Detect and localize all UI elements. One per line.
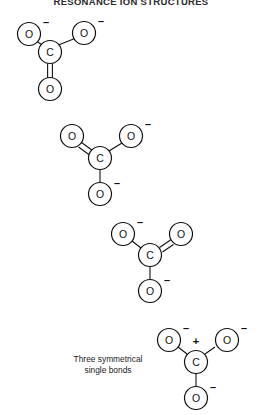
bond-single-upper-right bbox=[109, 143, 122, 151]
resonance-structure-1: C O – O – O bbox=[18, 15, 105, 101]
atom-carbon-label: C bbox=[46, 46, 54, 58]
bond-double-upper-left-b bbox=[79, 147, 90, 155]
charge-minus-upper-right: – bbox=[241, 322, 247, 334]
atom-oxygen-label-upper-right: O bbox=[127, 130, 135, 142]
resonance-structure-3: C O – O O – bbox=[112, 216, 193, 303]
charge-minus-upper-right: – bbox=[145, 118, 151, 130]
atom-carbon-label: C bbox=[96, 152, 104, 164]
resonance-structures-figure: RESONANCE ION STRUCTURES C O – O – O bbox=[0, 0, 262, 415]
atom-oxygen-label-upper-right: O bbox=[80, 27, 88, 39]
atom-oxygen-label-upper-left: O bbox=[25, 28, 33, 40]
charge-minus-bottom: – bbox=[164, 274, 170, 286]
bond-double-upper-right-b bbox=[163, 245, 174, 253]
bond-single-upper-right bbox=[205, 347, 215, 354]
bond-single-upper-left bbox=[132, 241, 141, 248]
bond-single-upper-left bbox=[178, 347, 187, 354]
resonance-structure-2: C O O – O – bbox=[61, 118, 152, 206]
atom-carbon-label: C bbox=[192, 356, 200, 368]
bond-double-upper-right-a bbox=[160, 240, 171, 248]
atom-oxygen-label-upper-left: O bbox=[119, 228, 127, 240]
structures-canvas: C O – O – O C O O – O – bbox=[0, 0, 262, 415]
atom-carbon-label: C bbox=[146, 249, 154, 261]
charge-minus-upper-left: – bbox=[137, 216, 143, 228]
atom-oxygen-label-upper-left: O bbox=[68, 130, 76, 142]
bond-double-upper-left-a bbox=[82, 143, 93, 151]
atom-oxygen-label-bottom: O bbox=[146, 285, 154, 297]
caption-line-2: single bonds bbox=[52, 365, 164, 376]
figure-caption: Three symmetrical single bonds bbox=[52, 354, 164, 375]
charge-minus-bottom: – bbox=[114, 177, 120, 189]
resonance-structure-4: C + O – O – O – bbox=[158, 322, 248, 410]
charge-plus-carbon: + bbox=[193, 335, 199, 347]
caption-line-1: Three symmetrical bbox=[52, 354, 164, 365]
atom-oxygen-label-bottom: O bbox=[96, 188, 104, 200]
atom-oxygen-label-upper-right: O bbox=[177, 228, 185, 240]
charge-minus-upper-left: – bbox=[43, 16, 49, 28]
atom-oxygen-label-upper-right: O bbox=[223, 334, 231, 346]
charge-minus-bottom: – bbox=[210, 381, 216, 393]
atom-oxygen-label-upper-left: O bbox=[165, 334, 173, 346]
charge-minus-upper-left: – bbox=[183, 322, 189, 334]
charge-minus-upper-right: – bbox=[98, 15, 104, 27]
atom-oxygen-label-bottom: O bbox=[46, 83, 54, 95]
atom-oxygen-label-bottom: O bbox=[192, 392, 200, 404]
